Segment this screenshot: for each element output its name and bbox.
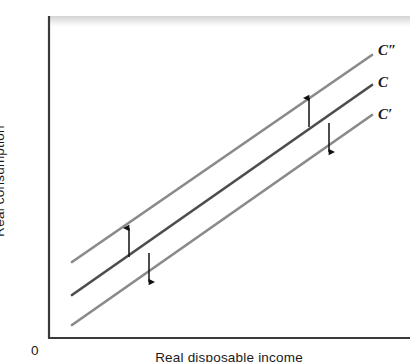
curve-label-c-double-prime: C″ [378, 42, 396, 58]
line-c-double-prime [72, 55, 372, 262]
curve-label-c: C [378, 74, 389, 90]
consumption-lines [72, 55, 372, 325]
axis-lines [48, 16, 410, 339]
curve-label-c-prime: C′ [378, 106, 392, 122]
shift-arrows-right [309, 98, 329, 152]
origin-label: 0 [31, 343, 39, 358]
x-axis-label: Real disposable income [48, 350, 410, 362]
y-axis-label-text: Real consumption [0, 125, 7, 236]
consumption-function-figure: C″ C C′ Real consumption 0 Real disposab… [0, 0, 410, 362]
y-axis-label: Real consumption [0, 0, 30, 362]
curve-labels: C″ C C′ [378, 42, 396, 122]
line-c-prime [72, 115, 372, 325]
chart-plot-area: C″ C C′ [0, 0, 410, 362]
line-c [72, 85, 372, 295]
